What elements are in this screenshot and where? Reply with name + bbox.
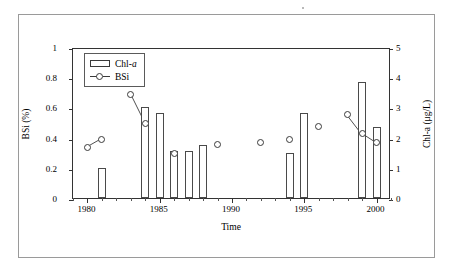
y-tick-right xyxy=(389,49,393,50)
y-tick-label-right: 5 xyxy=(396,43,426,53)
x-tick-minor xyxy=(246,198,247,201)
x-tick-minor xyxy=(333,198,334,201)
x-tick-label: 1980 xyxy=(64,204,108,214)
x-tick-minor xyxy=(116,198,117,201)
x-tick-minor xyxy=(319,198,320,201)
x-tick-label: 1985 xyxy=(137,204,181,214)
y-tick-right xyxy=(389,140,393,141)
bsi-marker xyxy=(84,144,91,151)
y-tick-label-left: 0.6 xyxy=(17,103,57,113)
bar xyxy=(373,127,381,198)
chart-legend: Chl-a BSi xyxy=(84,53,145,87)
x-tick-minor xyxy=(348,198,349,201)
x-tick-label: 1995 xyxy=(281,204,325,214)
x-tick-major xyxy=(160,198,161,203)
legend-item-chla-label: Chl-a xyxy=(115,59,137,69)
line-circle-swatch-icon xyxy=(90,73,110,80)
bsi-marker xyxy=(344,111,351,118)
y-tick-label-right: 2 xyxy=(396,134,426,144)
stray-speck xyxy=(302,7,304,9)
y-tick-left xyxy=(69,109,73,110)
bar xyxy=(185,151,193,198)
bar-swatch-icon xyxy=(90,60,110,67)
x-axis-title: Time xyxy=(221,222,241,232)
bsi-marker xyxy=(171,150,178,157)
y-tick-left xyxy=(69,49,73,50)
legend-item-bsi: BSi xyxy=(90,70,137,83)
x-tick-minor xyxy=(261,198,262,201)
x-tick-minor xyxy=(145,198,146,201)
y-tick-label-right: 3 xyxy=(396,103,426,113)
y-tick-label-left: 1 xyxy=(17,43,57,53)
x-tick-minor xyxy=(203,198,204,201)
x-tick-label: 1990 xyxy=(209,204,253,214)
bar xyxy=(170,151,178,198)
bar xyxy=(286,153,294,198)
y-tick-left xyxy=(69,170,73,171)
y-tick-label-right: 1 xyxy=(396,164,426,174)
x-tick-minor xyxy=(189,198,190,201)
bsi-marker xyxy=(127,91,134,98)
x-tick-minor xyxy=(174,198,175,201)
x-tick-minor xyxy=(290,198,291,201)
bar xyxy=(156,113,164,198)
bar xyxy=(300,113,308,198)
y-tick-label-left: 0.8 xyxy=(17,73,57,83)
figure-container: BSi (%) Chl-a (μg/L) Time 00.20.40.60.81… xyxy=(0,0,453,276)
bsi-marker xyxy=(359,130,366,137)
bar xyxy=(358,82,366,198)
bsi-marker xyxy=(142,120,149,127)
bsi-marker xyxy=(214,141,221,148)
legend-item-chla: Chl-a xyxy=(90,57,137,70)
y-tick-right xyxy=(389,170,393,171)
y-tick-label-right: 4 xyxy=(396,73,426,83)
y-tick-label-left: 0.4 xyxy=(17,134,57,144)
x-tick-minor xyxy=(102,198,103,201)
x-tick-major xyxy=(304,198,305,203)
y-tick-right xyxy=(389,79,393,80)
x-tick-major xyxy=(87,198,88,203)
bar xyxy=(98,168,106,198)
bsi-marker xyxy=(98,136,105,143)
bsi-marker xyxy=(257,139,264,146)
x-tick-minor xyxy=(275,198,276,201)
x-tick-label: 2000 xyxy=(354,204,398,214)
y-tick-left xyxy=(69,79,73,80)
x-tick-major xyxy=(232,198,233,203)
x-tick-minor xyxy=(73,198,74,201)
legend-item-bsi-label: BSi xyxy=(115,72,129,82)
x-tick-minor xyxy=(131,198,132,201)
bsi-marker xyxy=(315,123,322,130)
x-tick-minor xyxy=(391,198,392,201)
x-tick-minor xyxy=(362,198,363,201)
y-tick-left xyxy=(69,140,73,141)
y-tick-label-left: 0 xyxy=(17,194,57,204)
x-tick-minor xyxy=(218,198,219,201)
y-tick-right xyxy=(389,109,393,110)
bar xyxy=(199,145,207,198)
bsi-marker xyxy=(286,136,293,143)
y-tick-label-right: 0 xyxy=(396,194,426,204)
x-tick-major xyxy=(377,198,378,203)
y-tick-label-left: 0.2 xyxy=(17,164,57,174)
